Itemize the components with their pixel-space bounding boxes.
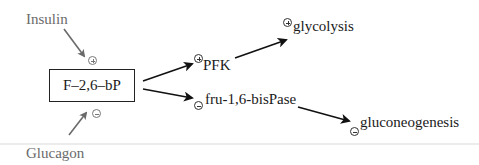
fbpase-minus-icon [194,101,203,110]
gluconeogenesis-label: gluconeogenesis [360,115,459,130]
fbpase-label: fru-1,6-bisPase [205,92,296,107]
f26bp-node: F–2,6–bP [49,69,135,102]
pfk-plus-icon [194,54,203,63]
insulin-label: Insulin [26,12,68,27]
f26bp-to-fbpase-arrow [143,89,192,98]
insulin-arrow [64,29,84,56]
fbpase-to-gluconeogenesis-arrow [298,107,349,121]
pfk-to-glycolysis-arrow [235,40,286,58]
glycolysis-plus-icon [283,18,292,27]
divider-line [0,143,479,145]
insulin-plus-icon [88,56,97,65]
glucagon-label: Glucagon [26,146,84,161]
pfk-label: PFK [203,58,231,73]
glycolysis-label: glycolysis [293,19,354,34]
glucagon-minus-icon [92,109,101,118]
f26bp-to-pfk-arrow [143,64,192,81]
f26bp-label: F–2,6–bP [63,77,121,94]
glucagon-arrow [69,113,86,135]
gluconeogenesis-minus-icon [350,127,359,136]
